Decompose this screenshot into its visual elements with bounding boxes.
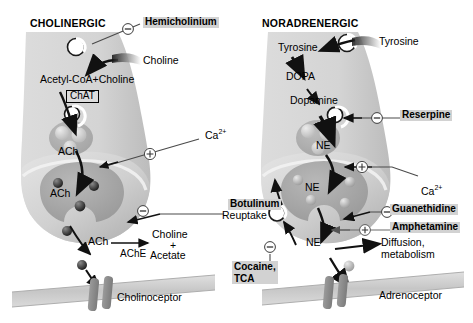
calcium-label-right: Ca2+ xyxy=(421,184,442,197)
drug-label-cocaine-tca[interactable]: Cocaine,TCA xyxy=(232,261,278,284)
panel-title-cholinergic: CHOLINERGIC xyxy=(30,18,106,29)
released-transmitter-dot xyxy=(77,260,87,270)
arrow-ne-diffusion xyxy=(335,244,378,249)
tyrosine-step-label: Tyrosine xyxy=(278,42,318,53)
calcium-label-left: Ca2+ xyxy=(205,128,226,141)
acetyl-coa-choline-label: Acetyl-CoA+Choline xyxy=(40,74,134,85)
ache-enzyme-label: AChE xyxy=(120,249,146,260)
ach-terminal-label: ACh xyxy=(50,188,70,199)
amphetamine-plus-node xyxy=(360,225,371,236)
vesicle-dot xyxy=(293,175,303,185)
choline-substrate-label: Choline xyxy=(143,55,179,66)
hemicholinium-minus-node xyxy=(123,24,134,35)
ach-released-label: ACh xyxy=(88,236,108,247)
drug-label-amphetamine[interactable]: Amphetamine xyxy=(390,222,460,233)
ach-vesicle-label: ACh xyxy=(58,146,78,157)
vesicle-dot xyxy=(340,198,350,208)
chat-enzyme-box: ChAT xyxy=(66,90,99,103)
vesicle-dot xyxy=(75,201,86,212)
reuptake-label: Reuptake xyxy=(222,210,267,221)
calcium-plus-node-right xyxy=(356,161,367,172)
released-transmitter-dot xyxy=(344,261,355,272)
tyrosine-substrate-label: Tyrosine xyxy=(379,36,419,47)
metabolite-acetate-label: Acetate xyxy=(150,250,186,261)
reserpine-minus-node xyxy=(372,113,383,124)
figure-canvas: CHOLINERGIC Hemicholinium Choline Acetyl… xyxy=(0,0,473,323)
cholinoceptor-label: Cholinoceptor xyxy=(117,292,182,303)
vesicle-dot xyxy=(306,195,316,205)
diffusion-label-line2: metabolism xyxy=(381,249,435,260)
ne-vesicle-label: NE xyxy=(316,140,331,151)
dopamine-step-label: Dopamine xyxy=(290,95,338,106)
ne-released-label: NE xyxy=(306,237,321,248)
ne-terminal-label: NE xyxy=(305,182,320,193)
panel-title-noradrenergic: NORADRENERGIC xyxy=(262,18,359,29)
diffusion-label-line1: Diffusion, xyxy=(381,237,425,248)
postsynaptic-membrane-left xyxy=(12,275,215,307)
adrenoceptor-label: Adrenoceptor xyxy=(379,290,442,301)
choline-transporter-icon xyxy=(68,39,86,56)
vesicle-dot xyxy=(89,181,99,191)
calcium-plus-node-left xyxy=(144,148,155,159)
drug-label-botulinum[interactable]: Botulinum xyxy=(228,199,281,210)
botulinum-minus-node xyxy=(138,206,149,217)
drug-label-guanethidine[interactable]: Guanethidine xyxy=(390,204,458,215)
dopa-step-label: DOPA xyxy=(286,71,315,82)
drug-label-hemicholinium[interactable]: Hemicholinium xyxy=(143,17,219,28)
vesicle-dot xyxy=(345,177,355,187)
drug-label-reserpine[interactable]: Reserpine xyxy=(400,110,452,121)
cocaine-minus-node xyxy=(265,242,276,253)
